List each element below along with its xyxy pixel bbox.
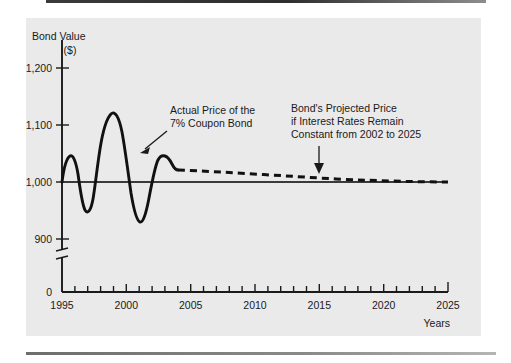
x-tick-label-2015: 2015 <box>308 299 332 311</box>
projected-price-curve <box>178 170 448 182</box>
x-tick-label-1995: 1995 <box>50 299 74 311</box>
projected-price-annotation-line3: Constant from 2002 to 2025 <box>291 128 421 140</box>
x-tick-label-2025: 2025 <box>436 299 460 311</box>
projected-price-annotation-line2: if Interest Rates Remain <box>291 115 404 127</box>
x-tick-label-2020: 2020 <box>372 299 396 311</box>
y-axis-label-line1: Bond Value <box>32 30 86 42</box>
y-tick-label-0: 0 <box>46 286 52 298</box>
top-divider-rule <box>46 0 486 3</box>
actual-price-annotation-line2: 7% Coupon Bond <box>170 117 252 129</box>
actual-price-curve <box>62 113 178 222</box>
bottom-divider-rule <box>26 352 496 355</box>
x-axis-minor-ticks <box>75 282 448 292</box>
projected-price-annotation-arrow-head <box>314 163 324 174</box>
y-tick-label-1000: 1,000 <box>26 176 52 188</box>
y-tick-label-900: 900 <box>34 233 52 245</box>
chart-plot-area: Bond Value ($) 1,200 1,100 1,000 900 0 <box>26 18 481 336</box>
x-tick-label-2000: 2000 <box>115 299 139 311</box>
actual-price-annotation: Actual Price of the 7% Coupon Bond <box>140 104 255 154</box>
actual-price-annotation-arrow-head <box>140 147 150 154</box>
y-tick-label-1100: 1,100 <box>26 119 52 131</box>
projected-price-annotation-line1: Bond's Projected Price <box>291 102 397 114</box>
x-axis-label: Years <box>424 317 450 329</box>
projected-price-annotation: Bond's Projected Price if Interest Rates… <box>291 102 421 174</box>
y-axis-label-line2: ($) <box>64 44 77 56</box>
x-tick-label-2005: 2005 <box>179 299 203 311</box>
y-tick-label-1200: 1,200 <box>26 62 52 74</box>
actual-price-annotation-arrow-line <box>145 131 167 149</box>
bond-value-chart-figure: Bond Value ($) 1,200 1,100 1,000 900 0 <box>26 18 481 336</box>
actual-price-annotation-line1: Actual Price of the <box>170 104 255 116</box>
x-tick-label-2010: 2010 <box>243 299 267 311</box>
